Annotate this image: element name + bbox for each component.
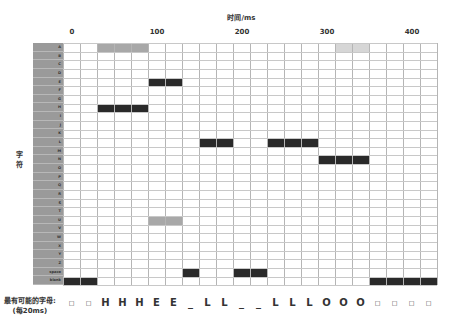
sequence-char: H xyxy=(114,296,131,310)
sequence-char: □ xyxy=(80,296,97,310)
grid-line xyxy=(63,268,437,269)
sequence-char: O xyxy=(352,296,369,310)
sequence-char: H xyxy=(97,296,114,310)
x-axis-title: 时间/ms xyxy=(0,12,453,22)
probability-cell xyxy=(267,138,318,147)
probability-cell xyxy=(97,43,148,52)
sequence-char: □ xyxy=(420,296,437,310)
row-label: Y xyxy=(33,250,63,259)
row-label: N xyxy=(33,155,63,164)
sequence-char: L xyxy=(199,296,216,310)
row-label: J xyxy=(33,121,63,130)
row-label: S xyxy=(33,199,63,208)
row-label: U xyxy=(33,216,63,225)
x-tick-200: 200 xyxy=(235,28,250,36)
sequence-char: □ xyxy=(386,296,403,310)
row-label: B xyxy=(33,52,63,61)
grid-line xyxy=(437,43,438,285)
row-label: K xyxy=(33,129,63,138)
grid-line xyxy=(63,138,437,139)
grid-line xyxy=(63,207,437,208)
probability-cell xyxy=(97,104,148,113)
grid-line xyxy=(63,164,437,165)
grid-line xyxy=(63,52,437,53)
grid-line xyxy=(63,104,437,105)
sequence-char: □ xyxy=(403,296,420,310)
grid-line xyxy=(63,285,437,286)
row-label: I xyxy=(33,112,63,121)
sequence-label-line-2: (每20ms) xyxy=(4,306,56,316)
x-tick-100: 100 xyxy=(150,28,165,36)
probability-cell xyxy=(182,268,199,277)
grid-line xyxy=(63,242,437,243)
sequence-char: L xyxy=(301,296,318,310)
grid-line xyxy=(63,233,437,234)
sequence-char: _ xyxy=(250,296,267,310)
sequence-label: 最有可能的字母: (每20ms) xyxy=(4,296,56,316)
probability-cell xyxy=(318,155,369,164)
sequence-char: O xyxy=(318,296,335,310)
sequence-char: L xyxy=(267,296,284,310)
row-label: D xyxy=(33,69,63,78)
grid-line xyxy=(63,181,437,182)
sequence-char: _ xyxy=(233,296,250,310)
row-label: M xyxy=(33,147,63,156)
row-label: O xyxy=(33,164,63,173)
row-label: X xyxy=(33,242,63,251)
grid-line xyxy=(63,86,437,87)
sequence-char: L xyxy=(284,296,301,310)
grid-line xyxy=(63,69,437,70)
sequence-char: E xyxy=(165,296,182,310)
grid-line xyxy=(63,216,437,217)
grid-line xyxy=(63,112,437,113)
grid-line xyxy=(63,190,437,191)
most-likely-sequence: □□HHHEE_LL__LLLOOO□□□□ xyxy=(63,296,437,310)
row-label: G xyxy=(33,95,63,104)
x-tick-300: 300 xyxy=(320,28,335,36)
grid-line xyxy=(63,43,437,44)
grid-line xyxy=(63,121,437,122)
grid-line xyxy=(63,130,437,131)
row-label: blank xyxy=(33,276,63,285)
sequence-char: O xyxy=(335,296,352,310)
sequence-char: _ xyxy=(182,296,199,310)
sequence-char: □ xyxy=(63,296,80,310)
row-label: W xyxy=(33,233,63,242)
sequence-char: □ xyxy=(369,296,386,310)
row-label-column: ABCDEFGHIJKLMNOPQRSTUVWXYZspaceblank xyxy=(33,43,63,285)
row-label: F xyxy=(33,86,63,95)
y-axis-title-char-2: 符 xyxy=(14,160,24,170)
grid-line xyxy=(63,277,437,278)
y-axis-title-char-1: 字 xyxy=(14,150,24,160)
grid-line xyxy=(63,199,437,200)
row-label: R xyxy=(33,190,63,199)
row-label: Q xyxy=(33,181,63,190)
grid-line xyxy=(63,225,437,226)
grid-line xyxy=(63,251,437,252)
x-tick-0: 0 xyxy=(70,28,75,36)
grid-line xyxy=(63,155,437,156)
row-label: P xyxy=(33,173,63,182)
row-label: space xyxy=(33,268,63,277)
grid-line xyxy=(63,259,437,260)
row-label: C xyxy=(33,60,63,69)
row-label: T xyxy=(33,207,63,216)
grid-line xyxy=(63,95,437,96)
grid-line xyxy=(63,147,437,148)
row-label: H xyxy=(33,103,63,112)
sequence-char: H xyxy=(131,296,148,310)
sequence-label-line-1: 最有可能的字母: xyxy=(4,296,56,306)
grid-line xyxy=(63,78,437,79)
grid-line xyxy=(63,173,437,174)
probability-grid xyxy=(63,43,437,285)
row-label: V xyxy=(33,224,63,233)
sequence-char: L xyxy=(216,296,233,310)
x-tick-400: 400 xyxy=(405,28,420,36)
row-label: E xyxy=(33,78,63,87)
row-label: L xyxy=(33,138,63,147)
grid-line xyxy=(63,60,437,61)
y-axis-title: 字 符 xyxy=(14,150,24,170)
sequence-char: E xyxy=(148,296,165,310)
row-label: Z xyxy=(33,259,63,268)
row-label: A xyxy=(33,43,63,52)
